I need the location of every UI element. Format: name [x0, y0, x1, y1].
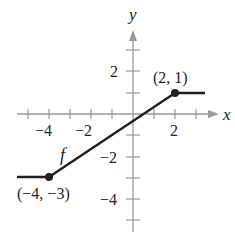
- x-tick-label-neg2: −2: [75, 122, 92, 139]
- point-label-2-1: (2, 1): [153, 69, 188, 87]
- x-axis: [17, 109, 219, 119]
- point-2-1: [171, 89, 179, 97]
- y-tick-label-2: 2: [110, 63, 118, 80]
- point-neg4-neg3: [45, 173, 53, 181]
- point-label-neg4-neg3: (−4, −3): [17, 185, 70, 203]
- x-tick-label-neg4: −4: [35, 122, 52, 139]
- function-graph: y x −4 −2 2 2 −2 −4 f (2, 1) (−4, −3): [0, 0, 235, 238]
- function-label: f: [60, 145, 68, 165]
- y-tick-label-neg4: −4: [100, 191, 117, 208]
- x-tick-label-2: 2: [170, 122, 178, 139]
- x-axis-label: x: [222, 105, 231, 124]
- y-axis-arrow-icon: [129, 30, 137, 41]
- y-axis: [126, 30, 140, 232]
- x-axis-arrow-icon: [208, 110, 219, 118]
- y-axis-label: y: [127, 5, 137, 24]
- y-tick-label-neg2: −2: [100, 149, 117, 166]
